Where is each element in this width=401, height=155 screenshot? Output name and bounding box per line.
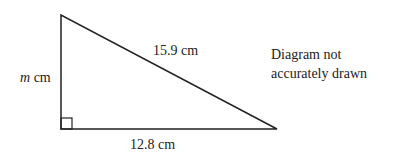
note-line-2: accurately drawn	[271, 66, 367, 82]
base-label: 12.8 cm	[130, 137, 175, 153]
right-triangle	[61, 15, 277, 129]
unit-cm: cm	[30, 70, 51, 85]
variable-m: m	[20, 70, 30, 85]
hypotenuse-label: 15.9 cm	[153, 43, 198, 59]
note-line-1: Diagram not	[271, 47, 341, 63]
right-angle-marker	[61, 118, 72, 129]
vertical-side-label: m cm	[20, 70, 51, 86]
